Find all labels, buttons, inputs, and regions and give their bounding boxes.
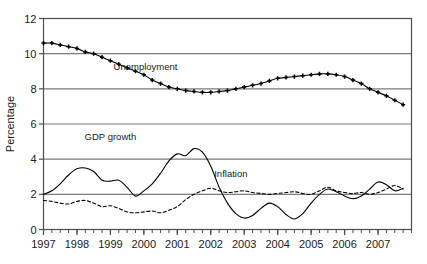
- data-point-marker: [259, 81, 263, 85]
- x-tick-label: 2003: [232, 238, 256, 250]
- y-tick-label: 10: [24, 48, 36, 60]
- data-point-marker: [276, 76, 280, 80]
- y-axis-ticks: [39, 19, 44, 230]
- data-point-marker: [317, 72, 321, 76]
- data-point-marker: [108, 59, 112, 63]
- data-point-marker: [351, 78, 355, 82]
- series-label-inflation: Inflation: [214, 168, 247, 179]
- economic-indicators-chart: 024681012 199719981999200020012002200320…: [0, 0, 427, 264]
- x-tick-label: 2006: [332, 238, 356, 250]
- series-label-gdp-growth: GDP growth: [85, 131, 137, 142]
- data-point-marker: [234, 87, 238, 91]
- x-tick-label: 2005: [299, 238, 323, 250]
- data-point-marker: [301, 74, 305, 78]
- data-point-marker: [376, 90, 380, 94]
- series-label-unemployment: Unemployment: [114, 61, 178, 72]
- data-point-marker: [41, 41, 45, 45]
- data-point-marker: [58, 43, 62, 47]
- data-point-marker: [309, 73, 313, 77]
- data-point-marker: [284, 75, 288, 79]
- data-point-marker: [401, 103, 405, 107]
- x-tick-label: 2007: [366, 238, 390, 250]
- x-tick-label: 1997: [31, 238, 55, 250]
- data-point-marker: [267, 79, 271, 83]
- data-point-marker: [75, 46, 79, 50]
- data-point-marker: [200, 90, 204, 94]
- data-point-marker: [292, 74, 296, 78]
- data-point-marker: [175, 87, 179, 91]
- data-point-marker: [342, 74, 346, 78]
- x-tick-label: 2002: [199, 238, 223, 250]
- x-tick-label: 1998: [65, 238, 89, 250]
- data-point-marker: [192, 89, 196, 93]
- series-markers: [41, 41, 405, 107]
- series-annotations: UnemploymentGDP growthInflation: [85, 61, 248, 178]
- y-axis-tick-labels: 024681012: [24, 13, 36, 236]
- x-axis-tick-labels: 1997199819992000200120022003200420052006…: [31, 238, 390, 250]
- series-line: [44, 43, 404, 105]
- data-point-marker: [50, 41, 54, 45]
- y-axis-title: Percentage: [4, 96, 16, 152]
- x-tick-label: 2000: [132, 238, 156, 250]
- y-tick-label: 4: [30, 153, 36, 165]
- y-tick-label: 12: [24, 13, 36, 25]
- x-tick-label: 1999: [98, 238, 122, 250]
- data-point-marker: [217, 89, 221, 93]
- data-point-marker: [209, 90, 213, 94]
- data-point-marker: [250, 83, 254, 87]
- data-point-marker: [92, 52, 96, 56]
- x-tick-label: 2001: [165, 238, 189, 250]
- data-point-marker: [66, 45, 70, 49]
- x-tick-label: 2004: [265, 238, 289, 250]
- y-tick-label: 6: [30, 118, 36, 130]
- chart-canvas: 024681012 199719981999200020012002200320…: [0, 0, 427, 264]
- data-point-marker: [158, 81, 162, 85]
- y-tick-label: 0: [30, 224, 36, 236]
- data-point-marker: [100, 55, 104, 59]
- data-point-marker: [326, 72, 330, 76]
- data-point-marker: [393, 98, 397, 102]
- y-tick-label: 2: [30, 188, 36, 200]
- data-point-marker: [334, 73, 338, 77]
- series-line: [44, 186, 404, 213]
- data-point-marker: [384, 94, 388, 98]
- y-tick-label: 8: [30, 83, 36, 95]
